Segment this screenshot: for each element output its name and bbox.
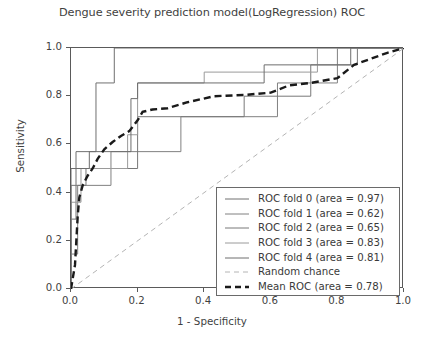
legend-item-label: ROC fold 0 (area = 0.97) [258, 193, 384, 205]
y-tick-mark [66, 95, 70, 96]
y-tick-mark [66, 47, 70, 48]
y-tick-label: 0.2 [28, 234, 62, 245]
legend-item[interactable]: ROC fold 0 (area = 0.97) [217, 192, 399, 207]
x-axis-label: 1 - Specificity [0, 315, 424, 327]
chart-title: Dengue severity prediction model(LogRegr… [0, 6, 424, 19]
y-tick-label: 1.0 [28, 41, 62, 52]
legend-item-label: ROC fold 1 (area = 0.62) [258, 208, 384, 220]
legend-line-swatch [224, 281, 250, 293]
x-tick-label: 0.0 [50, 295, 90, 306]
legend-line-swatch [224, 237, 250, 249]
y-axis-label: Sensitivity [14, 86, 26, 206]
y-tick-label: 0.8 [28, 89, 62, 100]
x-tick-label: 1.0 [383, 295, 423, 306]
x-tick-mark [137, 288, 138, 292]
legend-line-swatch [224, 193, 250, 205]
y-tick-label: 0.6 [28, 137, 62, 148]
legend-item[interactable]: ROC fold 3 (area = 0.83) [217, 236, 399, 251]
legend-item-label: Mean ROC (area = 0.78) [258, 281, 383, 293]
legend-item[interactable]: ROC fold 4 (area = 0.81) [217, 250, 399, 265]
x-tick-label: 0.8 [316, 295, 356, 306]
y-tick-label: 0.4 [28, 186, 62, 197]
legend-item-label: ROC fold 4 (area = 0.81) [258, 252, 384, 264]
x-tick-mark [70, 288, 71, 292]
y-tick-mark [66, 240, 70, 241]
legend-item-label: ROC fold 2 (area = 0.65) [258, 222, 384, 234]
legend-item[interactable]: ROC fold 2 (area = 0.65) [217, 221, 399, 236]
legend-line-swatch [224, 222, 250, 234]
legend-item[interactable]: Random chance [217, 265, 399, 280]
legend-item[interactable]: ROC fold 1 (area = 0.62) [217, 207, 399, 222]
y-tick-mark [66, 288, 70, 289]
legend-item[interactable]: Mean ROC (area = 0.78) [217, 280, 399, 295]
legend-line-swatch [224, 266, 250, 278]
legend-box: ROC fold 0 (area = 0.97)ROC fold 1 (area… [216, 187, 400, 296]
x-tick-label: 0.2 [117, 295, 157, 306]
x-tick-mark [203, 288, 204, 292]
x-tick-label: 0.6 [250, 295, 290, 306]
y-tick-label: 0.0 [28, 282, 62, 293]
x-tick-mark [403, 288, 404, 292]
y-tick-mark [66, 143, 70, 144]
legend-item-label: ROC fold 3 (area = 0.83) [258, 237, 384, 249]
x-tick-label: 0.4 [183, 295, 223, 306]
legend-line-swatch [224, 252, 250, 264]
y-tick-mark [66, 192, 70, 193]
roc-chart-figure: Dengue severity prediction model(LogRegr… [0, 0, 424, 353]
legend-item-label: Random chance [258, 266, 340, 278]
legend-line-swatch [224, 208, 250, 220]
